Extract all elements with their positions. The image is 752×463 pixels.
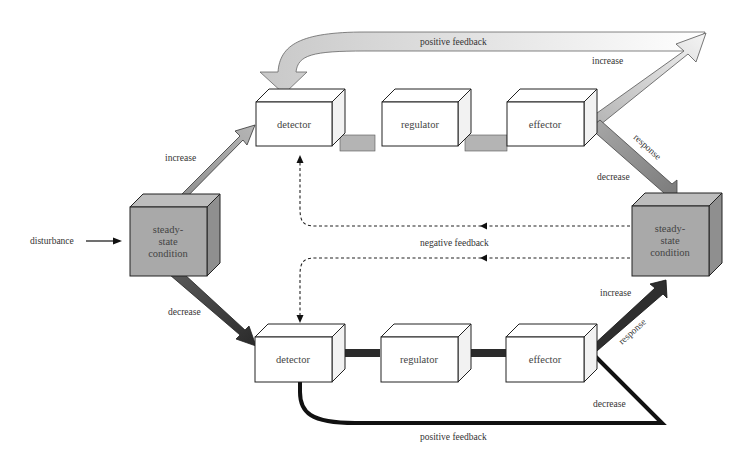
lower-positive-feedback-label: positive feedback	[420, 432, 487, 442]
left-state-line3: condition	[148, 248, 188, 259]
right-state-line1: steady-	[655, 223, 686, 234]
upper-effector-label: effector	[529, 119, 562, 130]
disturbance-arrow	[86, 238, 122, 245]
decrease-label-left: decrease	[168, 307, 201, 317]
upper-effector-box: effector	[507, 89, 597, 146]
left-steady-state-box: steady- state condition	[130, 194, 220, 276]
left-state-line2: state	[158, 236, 178, 247]
negative-feedback-arrowhead-mid-top	[480, 223, 487, 230]
negative-feedback-arrowhead-down	[297, 315, 304, 323]
negative-feedback-arrowhead-mid-bottom	[480, 255, 487, 262]
lower-detector-label: detector	[276, 354, 310, 365]
upper-increase-label: increase	[592, 56, 623, 66]
negative-feedback-label: negative feedback	[420, 238, 489, 248]
negative-feedback-arrowhead-up	[297, 155, 304, 163]
lower-effector-box: effector	[506, 324, 597, 382]
upper-detector-box: detector	[256, 89, 345, 146]
lower-decrease-label: decrease	[593, 399, 626, 409]
diagram-canvas: disturbance increase decrease steady- st…	[0, 0, 752, 463]
lower-regulator-box: regulator	[381, 324, 471, 382]
upper-regulator-box: regulator	[382, 89, 471, 146]
upper-positive-feedback-label: positive feedback	[420, 37, 487, 47]
right-state-line2: state	[660, 235, 680, 246]
lower-connector-1	[340, 349, 380, 357]
upper-detector-label: detector	[277, 119, 311, 130]
lower-effector-label: effector	[529, 354, 562, 365]
right-steady-state-box: steady- state condition	[632, 193, 722, 276]
right-state-line3: condition	[650, 247, 690, 258]
upper-decrease-response-arrow	[590, 120, 677, 199]
upper-decrease-label: decrease	[597, 172, 630, 182]
upper-connector-2	[465, 135, 507, 151]
upper-connector-1	[340, 135, 375, 151]
lower-regulator-label: regulator	[400, 354, 438, 365]
lower-positive-feedback-loop	[300, 355, 662, 423]
left-state-line1: steady-	[153, 224, 184, 235]
lower-detector-box: detector	[255, 324, 345, 382]
lower-increase-label: increase	[600, 288, 631, 298]
upper-regulator-label: regulator	[401, 119, 439, 130]
increase-label-left: increase	[165, 153, 196, 163]
disturbance-label: disturbance	[30, 236, 74, 246]
